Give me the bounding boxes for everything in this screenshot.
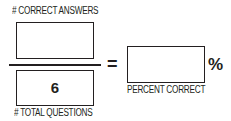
correct-answers-input[interactable] (16, 22, 94, 59)
total-questions-box[interactable]: 6 (16, 70, 94, 106)
fraction-bar (9, 64, 101, 66)
total-questions-label: # TOTAL QUESTIONS (14, 107, 92, 118)
total-questions-value: 6 (17, 79, 93, 96)
equals-sign: = (107, 55, 118, 73)
percent-correct-label: PERCENT CORRECT (127, 84, 205, 95)
correct-answers-label: # CORRECT ANSWERS (12, 5, 98, 16)
percent-correct-input[interactable] (127, 46, 205, 83)
percent-sign: % (208, 55, 223, 75)
